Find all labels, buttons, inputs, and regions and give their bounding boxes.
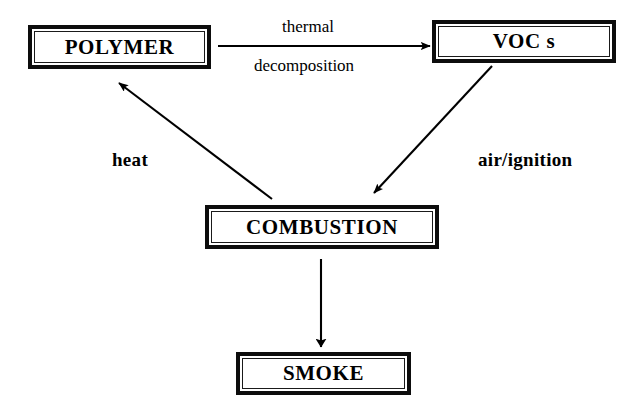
edge-label-decomposition: decomposition: [254, 57, 354, 74]
node-combustion-frame: COMBUSTION: [211, 211, 433, 243]
arrow-vocs-to-combustion: [374, 66, 492, 193]
node-smoke-label: SMOKE: [283, 363, 364, 384]
node-polymer-frame: POLYMER: [34, 31, 205, 63]
edge-label-thermal: thermal: [282, 18, 334, 35]
node-smoke[interactable]: SMOKE: [236, 352, 411, 395]
arrow-combustion-to-polymer: [119, 83, 272, 199]
node-polymer[interactable]: POLYMER: [28, 25, 211, 69]
node-polymer-label: POLYMER: [65, 37, 175, 58]
node-vocs-label: VOC s: [493, 31, 556, 52]
node-vocs[interactable]: VOC s: [432, 20, 616, 63]
node-smoke-frame: SMOKE: [242, 358, 405, 389]
node-vocs-frame: VOC s: [438, 26, 610, 57]
edge-label-heat: heat: [112, 150, 148, 169]
node-combustion[interactable]: COMBUSTION: [205, 205, 439, 249]
flow-diagram: POLYMER VOC s COMBUSTION SMOKE thermal d…: [0, 0, 640, 409]
edge-label-air-ignition: air/ignition: [478, 150, 572, 169]
node-combustion-label: COMBUSTION: [246, 217, 398, 238]
